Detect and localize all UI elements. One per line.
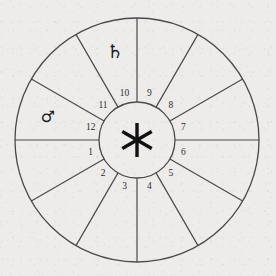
house-cusp-line (156, 173, 198, 246)
house-number-9: 9 (147, 88, 152, 98)
saturn-icon: ♄ (106, 40, 123, 62)
house-number-1: 1 (88, 147, 93, 157)
house-cusp-line (31, 159, 104, 201)
mars-icon: ♂ (41, 107, 55, 126)
house-number-2: 2 (101, 168, 106, 178)
house-number-4: 4 (147, 181, 152, 191)
house-cusp-line (156, 34, 198, 107)
house-number-8: 8 (169, 100, 174, 110)
house-number-3: 3 (122, 181, 127, 191)
house-cusp-line (170, 159, 243, 201)
sextile-aspect-icon (122, 123, 151, 157)
house-number-5: 5 (169, 168, 174, 178)
house-number-10: 10 (120, 88, 130, 98)
house-number-7: 7 (181, 122, 186, 132)
astrological-chart: 123456789101112 ♄♂ (0, 0, 276, 276)
zodiac-wheel-svg: 123456789101112 ♄♂ (0, 0, 276, 276)
house-number-12: 12 (86, 122, 96, 132)
house-number-6: 6 (181, 147, 186, 157)
house-number-11: 11 (98, 100, 107, 110)
house-cusp-line (76, 173, 118, 246)
house-cusp-line (170, 79, 243, 121)
